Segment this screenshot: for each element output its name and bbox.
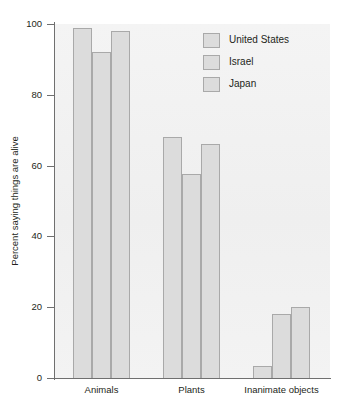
legend-swatch-japan [203,77,220,92]
bar [163,137,182,378]
bar [253,366,272,378]
legend: United States Israel Japan [203,30,289,96]
legend-item: Japan [203,74,289,94]
bar [291,307,310,378]
x-axis-line [54,378,331,379]
bar [201,144,220,378]
bar [92,52,111,378]
y-axis-tick [47,307,55,308]
legend-label-israel: Israel [229,57,253,67]
y-axis-tick [47,236,55,237]
y-axis-tick [47,166,55,167]
bar [272,314,291,378]
bar-chart-figure: 020406080100 AnimalsPlantsInanimate obje… [0,0,348,417]
bar [111,31,130,378]
legend-label-united-states: United States [229,35,289,45]
legend-label-japan: Japan [229,79,256,89]
x-axis-tick-label: Inanimate objects [222,385,342,395]
legend-item: United States [203,30,289,50]
y-axis-tick [47,95,55,96]
legend-swatch-israel [203,55,220,70]
y-axis-tick [47,24,55,25]
bar [73,28,92,378]
legend-swatch-united-states [203,33,220,48]
bar [182,174,201,378]
legend-item: Israel [203,52,289,72]
y-axis-title: Percent saying things are alive [8,24,22,378]
y-axis-line [54,22,55,380]
y-axis-tick [47,378,55,379]
